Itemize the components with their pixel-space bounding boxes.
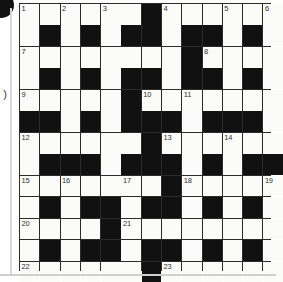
crossword-cell[interactable] xyxy=(121,197,140,218)
crossword-cell[interactable] xyxy=(223,262,242,282)
crossword-cell[interactable] xyxy=(101,68,120,89)
crossword-cell[interactable]: 20 xyxy=(20,219,39,240)
crossword-cell[interactable] xyxy=(40,133,59,154)
crossword-cell[interactable] xyxy=(203,133,222,154)
crossword-cell[interactable] xyxy=(223,25,242,46)
crossword-cell[interactable] xyxy=(61,219,80,240)
crossword-cell[interactable] xyxy=(81,90,100,111)
crossword-cell[interactable] xyxy=(182,240,201,261)
crossword-cell[interactable] xyxy=(263,240,282,261)
crossword-cell[interactable] xyxy=(40,90,59,111)
crossword-cell[interactable] xyxy=(243,262,262,282)
crossword-cell[interactable] xyxy=(182,111,201,132)
crossword-cell[interactable] xyxy=(81,47,100,68)
crossword-cell[interactable] xyxy=(223,240,242,261)
crossword-cell[interactable] xyxy=(121,262,140,282)
crossword-cell[interactable] xyxy=(61,197,80,218)
crossword-cell[interactable] xyxy=(263,197,282,218)
crossword-cell[interactable] xyxy=(121,47,140,68)
crossword-cell[interactable]: 5 xyxy=(223,4,242,25)
crossword-cell[interactable] xyxy=(142,219,161,240)
crossword-cell[interactable] xyxy=(101,47,120,68)
crossword-cell[interactable] xyxy=(121,133,140,154)
crossword-cell[interactable]: 3 xyxy=(101,4,120,25)
crossword-cell[interactable]: 21 xyxy=(121,219,140,240)
crossword-cell[interactable] xyxy=(162,219,181,240)
crossword-cell[interactable] xyxy=(223,176,242,197)
crossword-cell[interactable] xyxy=(101,262,120,282)
crossword-cell[interactable] xyxy=(243,219,262,240)
crossword-cell[interactable] xyxy=(40,219,59,240)
crossword-cell[interactable] xyxy=(263,262,282,282)
crossword-cell[interactable]: 12 xyxy=(20,133,39,154)
crossword-cell[interactable]: 6 xyxy=(263,4,282,25)
crossword-cell[interactable]: 2 xyxy=(61,4,80,25)
crossword-cell[interactable] xyxy=(182,4,201,25)
crossword-cell[interactable] xyxy=(142,47,161,68)
crossword-cell[interactable] xyxy=(20,25,39,46)
crossword-cell[interactable] xyxy=(263,219,282,240)
crossword-cell[interactable] xyxy=(162,25,181,46)
crossword-cell[interactable] xyxy=(203,176,222,197)
crossword-cell[interactable] xyxy=(81,133,100,154)
crossword-cell[interactable] xyxy=(162,90,181,111)
crossword-cell[interactable] xyxy=(182,133,201,154)
crossword-cell[interactable] xyxy=(223,68,242,89)
crossword-cell[interactable]: 7 xyxy=(20,47,39,68)
crossword-cell[interactable] xyxy=(203,219,222,240)
crossword-cell[interactable] xyxy=(61,240,80,261)
crossword-cell[interactable] xyxy=(162,47,181,68)
crossword-cell[interactable] xyxy=(61,25,80,46)
crossword-cell[interactable]: 14 xyxy=(223,133,242,154)
crossword-cell[interactable] xyxy=(223,47,242,68)
crossword-cell[interactable]: 9 xyxy=(20,90,39,111)
crossword-cell[interactable]: 11 xyxy=(182,90,201,111)
crossword-cell[interactable] xyxy=(121,240,140,261)
crossword-cell[interactable] xyxy=(101,111,120,132)
crossword-cell[interactable] xyxy=(61,111,80,132)
crossword-cell[interactable]: 4 xyxy=(162,4,181,25)
crossword-cell[interactable]: 1 xyxy=(20,4,39,25)
crossword-cell[interactable]: 19 xyxy=(263,176,282,197)
crossword-cell[interactable] xyxy=(101,154,120,175)
crossword-cell[interactable] xyxy=(203,262,222,282)
crossword-cell[interactable] xyxy=(40,4,59,25)
crossword-cell[interactable] xyxy=(121,4,140,25)
crossword-cell[interactable] xyxy=(61,47,80,68)
crossword-cell[interactable] xyxy=(61,262,80,282)
crossword-cell[interactable] xyxy=(101,90,120,111)
crossword-cell[interactable] xyxy=(243,47,262,68)
crossword-cell[interactable] xyxy=(20,68,39,89)
crossword-cell[interactable] xyxy=(263,68,282,89)
crossword-cell[interactable]: 22 xyxy=(20,262,39,282)
crossword-cell[interactable] xyxy=(182,197,201,218)
crossword-cell[interactable] xyxy=(40,262,59,282)
crossword-cell[interactable] xyxy=(263,111,282,132)
crossword-cell[interactable]: 8 xyxy=(203,47,222,68)
crossword-cell[interactable] xyxy=(61,68,80,89)
crossword-cell[interactable] xyxy=(61,133,80,154)
crossword-cell[interactable]: 23 xyxy=(162,262,181,282)
crossword-cell[interactable] xyxy=(203,90,222,111)
crossword-cell[interactable] xyxy=(101,176,120,197)
crossword-cell[interactable] xyxy=(142,176,161,197)
crossword-cell[interactable]: 17 xyxy=(121,176,140,197)
crossword-cell[interactable] xyxy=(81,176,100,197)
crossword-cell[interactable]: 18 xyxy=(182,176,201,197)
crossword-grid[interactable]: 1234567891011121314151617181920212223 xyxy=(19,3,271,271)
crossword-cell[interactable] xyxy=(182,219,201,240)
crossword-cell[interactable] xyxy=(182,262,201,282)
crossword-cell[interactable] xyxy=(81,219,100,240)
crossword-cell[interactable] xyxy=(81,4,100,25)
crossword-cell[interactable] xyxy=(243,90,262,111)
crossword-cell[interactable] xyxy=(182,154,201,175)
crossword-cell[interactable] xyxy=(203,4,222,25)
crossword-cell[interactable] xyxy=(243,133,262,154)
crossword-cell[interactable] xyxy=(162,68,181,89)
crossword-cell[interactable] xyxy=(223,197,242,218)
crossword-cell[interactable] xyxy=(243,4,262,25)
crossword-cell[interactable] xyxy=(223,219,242,240)
crossword-cell[interactable] xyxy=(20,154,39,175)
crossword-cell[interactable] xyxy=(20,197,39,218)
crossword-cell[interactable]: 13 xyxy=(162,133,181,154)
